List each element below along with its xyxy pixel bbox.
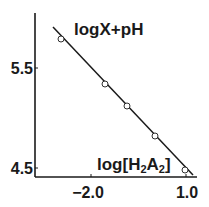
data-point — [124, 103, 130, 109]
xtick-label-left: −2.0 — [72, 184, 104, 201]
data-point — [182, 167, 188, 173]
ytick-label-high: 5.5 — [11, 60, 33, 77]
chart: 5.5 4.5 −2.0 1.0 logX+pH log[H2A2] — [0, 0, 209, 207]
fit-line — [53, 27, 193, 175]
x-axis-label: log[H2A2] — [97, 155, 171, 175]
xtick-label-right: 1.0 — [176, 184, 198, 201]
y-axis-label: logX+pH — [74, 20, 143, 39]
data-points — [58, 36, 188, 173]
data-point — [102, 81, 108, 87]
data-point — [152, 133, 158, 139]
ytick-label-low: 4.5 — [11, 160, 33, 177]
data-point — [58, 36, 64, 42]
